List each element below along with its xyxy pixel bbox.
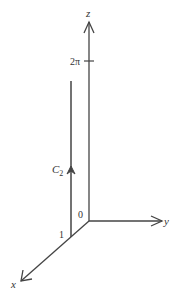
curve-label: C2 [52, 163, 63, 178]
z-tick-label: 2π [70, 56, 80, 67]
x-axis-label: x [10, 278, 16, 290]
axes-diagram: z 2π y x 0 1 C2 [0, 0, 178, 298]
y-axis [89, 216, 162, 226]
x-tick-label: 1 [59, 229, 64, 240]
curve-c2 [67, 81, 75, 237]
z-axis-label: z [85, 7, 91, 19]
diagram-canvas: z 2π y x 0 1 C2 [0, 0, 178, 298]
x-axis [21, 221, 89, 281]
z-axis [84, 22, 94, 221]
origin-label: 0 [78, 209, 83, 220]
y-axis-label: y [163, 215, 169, 227]
